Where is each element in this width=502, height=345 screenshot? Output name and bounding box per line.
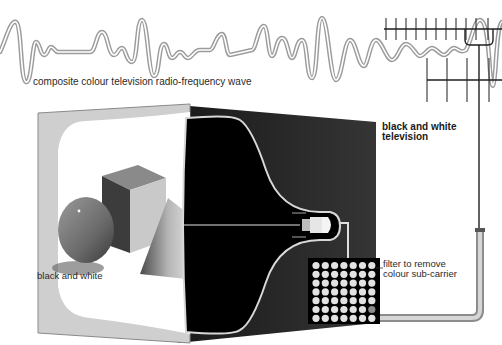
filter-dot	[331, 288, 338, 295]
filter-dot	[368, 262, 375, 269]
filter-label-line2: colour sub-carrier	[383, 269, 457, 279]
filter-dot	[340, 288, 347, 295]
filter-dot	[368, 288, 375, 295]
filter-dot	[322, 288, 329, 295]
filter-dot	[322, 280, 329, 287]
filter-dot	[350, 280, 357, 287]
filter-dot	[350, 271, 357, 278]
filter-dot	[340, 271, 347, 278]
filter-dot	[350, 315, 357, 322]
filter-dot	[331, 315, 338, 322]
filter-dot	[331, 297, 338, 304]
filter-dot	[359, 280, 366, 287]
filter-dot	[350, 306, 357, 313]
filter-dot	[359, 288, 366, 295]
tv-signal-diagram: composite colour television radio-freque…	[0, 0, 502, 345]
rf-wave-label: composite colour television radio-freque…	[33, 77, 251, 88]
filter-dot	[331, 262, 338, 269]
filter-dot	[322, 262, 329, 269]
filter-dot	[331, 306, 338, 313]
filter-dot	[312, 306, 319, 313]
filter-dot	[350, 297, 357, 304]
filter-dot	[368, 280, 375, 287]
filter-dot	[359, 271, 366, 278]
filter-dot	[312, 280, 319, 287]
filter-dot	[340, 315, 347, 322]
filter-dot	[368, 271, 375, 278]
filter-dot	[312, 262, 319, 269]
filter-label: filter to remove colour sub-carrier	[383, 259, 457, 280]
filter-dot	[312, 297, 319, 304]
filter-dot	[322, 306, 329, 313]
filter-dot	[368, 306, 375, 313]
tv-title-line2: television	[382, 132, 456, 142]
filter-dot	[359, 306, 366, 313]
filter-dot	[331, 271, 338, 278]
filter-dot	[312, 315, 319, 322]
filter-dot	[350, 262, 357, 269]
filter-dot	[359, 315, 366, 322]
screen-image-label: black and white	[37, 271, 102, 281]
filter-dot	[322, 271, 329, 278]
filter-dot	[312, 288, 319, 295]
filter-dot	[359, 297, 366, 304]
filter-dot	[340, 262, 347, 269]
filter-dot	[368, 297, 375, 304]
filter-dot	[340, 306, 347, 313]
filter-dot	[350, 288, 357, 295]
filter-dot	[368, 315, 375, 322]
filter-dot	[331, 280, 338, 287]
filter-dot	[359, 262, 366, 269]
filter-dot	[322, 315, 329, 322]
filter-dot	[322, 297, 329, 304]
filter-dot	[340, 280, 347, 287]
filter-dot	[340, 297, 347, 304]
filter-dot	[312, 271, 319, 278]
filter-grid	[308, 258, 380, 324]
tv-title-label: black and white television	[382, 122, 456, 142]
